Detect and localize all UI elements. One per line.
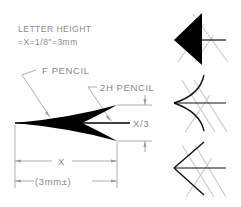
filled-triangle-arrowhead-example [174,13,228,65]
f-pencil-label: F PENCIL [42,65,90,76]
f-pencil-leader [22,70,50,117]
letter-height-label: LETTER HEIGHT [18,24,92,34]
mm-dimension-label: (3mm±) [35,176,71,187]
x-dimension-label: X [58,156,65,167]
x-dimension [15,160,117,163]
letter-height-value: =X=1/8"=3mm [18,37,78,47]
x-third-label: X/3 [133,118,149,129]
open-arrowhead-example [174,142,226,197]
2h-pencil-label: 2H PENCIL [100,82,155,93]
main-arrowhead [15,105,130,141]
arrowhead-drawing-diagram: LETTER HEIGHT =X=1/8"=3mm F PENCIL 2H PE… [0,0,241,207]
curved-arrowhead-example [174,75,227,132]
